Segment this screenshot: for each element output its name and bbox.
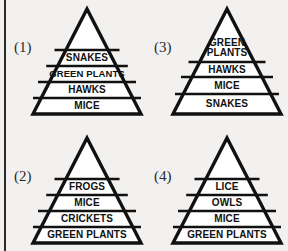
pyramid-2-band-4: GREEN PLANTS <box>47 230 127 240</box>
pyramid-3-band-2: HAWKS <box>208 65 246 75</box>
pyramid-3-band-3: MICE <box>214 81 239 91</box>
pyramid-2-band-1: FROGS <box>69 182 105 192</box>
pyramid-3-band-4: SNAKES <box>206 99 248 109</box>
energy-pyramid-figure: (1) SNAKES GREEN PLANTS HAWKS MICE (3) G… <box>0 0 288 251</box>
pyramid-1-index: (1) <box>14 40 32 55</box>
pyramid-2-band-2: MICE <box>74 198 99 208</box>
pyramid-3-band-1: GREEN PLANTS <box>203 38 251 58</box>
pyramid-1-band-2: GREEN PLANTS <box>49 69 125 79</box>
page-margin-rule <box>4 0 6 251</box>
pyramid-3-index: (3) <box>154 40 172 55</box>
pyramid-1: (1) SNAKES GREEN PLANTS HAWKS MICE <box>32 8 142 116</box>
pyramid-3: (3) GREEN PLANTS HAWKS MICE SNAKES <box>172 8 282 116</box>
pyramid-1-band-3: HAWKS <box>68 85 106 95</box>
pyramid-2: (2) FROGS MICE CRICKETS GREEN PLANTS <box>32 137 142 245</box>
pyramid-2-band-3: CRICKETS <box>61 214 113 224</box>
pyramid-4-band-4: GREEN PLANTS <box>187 230 267 240</box>
pyramid-4: (4) LICE OWLS MICE GREEN PLANTS <box>172 137 282 245</box>
pyramid-2-index: (2) <box>14 169 32 184</box>
pyramid-1-band-1: SNAKES <box>66 53 108 63</box>
pyramid-4-band-1: LICE <box>215 182 238 192</box>
pyramid-1-band-4: MICE <box>74 101 99 111</box>
pyramid-4-band-3: MICE <box>214 214 239 224</box>
pyramid-4-band-2: OWLS <box>212 198 242 208</box>
pyramid-4-index: (4) <box>154 169 172 184</box>
